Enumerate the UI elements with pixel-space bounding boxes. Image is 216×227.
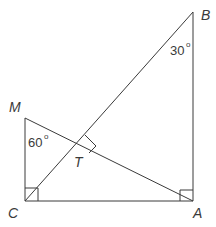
angle-b-value: 30 [170, 43, 184, 58]
geometry-diagram: B A C M T 30 o 60 o [0, 0, 216, 227]
label-point-c: C [8, 205, 19, 221]
angle-m-value: 60 [28, 135, 42, 150]
angle-m-degree: o [44, 132, 49, 141]
label-point-m: M [9, 99, 21, 115]
label-point-t: T [74, 154, 84, 170]
segment-ma [25, 118, 193, 201]
angle-b-degree: o [186, 40, 191, 49]
label-point-a: A [192, 205, 202, 221]
diagram-canvas: B A C M T 30 o 60 o [0, 0, 216, 227]
label-point-b: B [201, 7, 210, 23]
segment-bc [25, 12, 193, 201]
